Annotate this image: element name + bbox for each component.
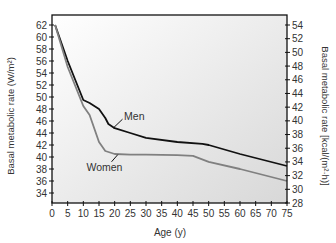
- x-tick-label: 65: [250, 208, 262, 219]
- y-right-tick-label: 50: [292, 47, 304, 58]
- x-tick-label: 75: [281, 208, 293, 219]
- x-tick-label: 10: [78, 208, 90, 219]
- y-tick-label: 60: [36, 32, 48, 43]
- x-tick-label: 30: [140, 208, 152, 219]
- y-tick-label: 34: [36, 188, 48, 199]
- y-tick-label: 54: [36, 68, 48, 79]
- y-tick-label: 42: [36, 140, 48, 151]
- y-right-tick-label: 30: [292, 184, 304, 195]
- x-tick-label: 15: [93, 208, 105, 219]
- y-right-tick-label: 40: [292, 115, 304, 126]
- y-tick-label: 36: [36, 176, 48, 187]
- plot-area: [52, 15, 287, 203]
- y-tick-label: 50: [36, 92, 48, 103]
- y-right-tick-label: 48: [292, 61, 304, 72]
- y-right-tick-label: 54: [292, 20, 304, 31]
- y-right-tick-label: 44: [292, 88, 304, 99]
- y-tick-label: 62: [36, 20, 48, 31]
- x-tick-label: 25: [125, 208, 137, 219]
- x-tick-label: 45: [187, 208, 199, 219]
- y-tick-label: 48: [36, 104, 48, 115]
- y-right-tick-label: 52: [292, 33, 304, 44]
- y-axis-label-left: Basal metabolic rate (W/m²): [5, 57, 16, 175]
- y-tick-label: 38: [36, 164, 48, 175]
- y-right-tick-label: 32: [292, 170, 304, 181]
- metabolic-rate-chart: 343638404244464850525456586062 283032343…: [0, 0, 336, 243]
- x-axis: 051015202530354045505560657075: [49, 201, 293, 219]
- y-right-tick-label: 34: [292, 156, 304, 167]
- y-tick-label: 44: [36, 128, 48, 139]
- y-tick-label: 56: [36, 56, 48, 67]
- y-right-tick-label: 36: [292, 143, 304, 154]
- y-right-tick-label: 42: [292, 102, 304, 113]
- y-right-tick-label: 38: [292, 129, 304, 140]
- x-tick-label: 70: [266, 208, 278, 219]
- label-men: Men: [124, 110, 145, 122]
- y-right-tick-label: 46: [292, 74, 304, 85]
- label-women: Women: [86, 161, 122, 173]
- x-tick-label: 55: [219, 208, 231, 219]
- y-tick-label: 52: [36, 80, 48, 91]
- y-tick-label: 58: [36, 44, 48, 55]
- y-right-tick-label: 28: [292, 198, 304, 209]
- x-tick-label: 50: [203, 208, 215, 219]
- x-tick-label: 0: [49, 208, 55, 219]
- x-tick-label: 5: [65, 208, 71, 219]
- x-tick-label: 40: [172, 208, 184, 219]
- x-tick-label: 35: [156, 208, 168, 219]
- y-tick-label: 46: [36, 116, 48, 127]
- x-tick-label: 20: [109, 208, 121, 219]
- right-y-axis: 2830323436384042444648505254: [285, 20, 304, 209]
- left-y-axis: 343638404244464850525456586062: [36, 20, 54, 199]
- x-tick-label: 60: [234, 208, 246, 219]
- x-axis-label: Age (y): [154, 227, 186, 238]
- y-axis-label-right: Basal metabolic rate [kcal/(m²·h)]: [320, 46, 331, 185]
- y-tick-label: 40: [36, 152, 48, 163]
